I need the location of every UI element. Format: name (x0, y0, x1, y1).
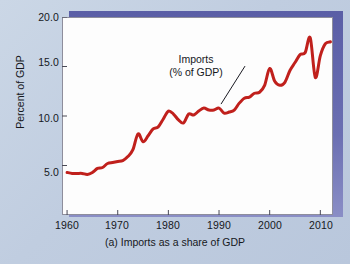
y-axis-title: Percent of GDP (14, 28, 26, 156)
x-tick-label: 1970 (95, 219, 139, 231)
figure-caption: (a) Imports as a share of GDP (0, 236, 350, 248)
x-tick-label: 1980 (146, 219, 190, 231)
x-tick-label: 1960 (45, 219, 89, 231)
figure-panel: 5.0 10.0 15.0 20.0 1960 1970 1980 1990 2… (0, 0, 350, 264)
series-annotation: Imports (% of GDP) (148, 53, 244, 78)
x-tick-label: 2000 (248, 219, 292, 231)
y-tick-label: 5.0 (17, 166, 59, 178)
series-annotation-line1: Imports (148, 53, 244, 66)
x-tick-label: 2010 (299, 219, 343, 231)
series-annotation-line2: (% of GDP) (148, 66, 244, 79)
y-tick-label: 20.0 (17, 11, 59, 23)
x-tick-label: 1990 (197, 219, 241, 231)
chart-canvas (62, 17, 333, 215)
